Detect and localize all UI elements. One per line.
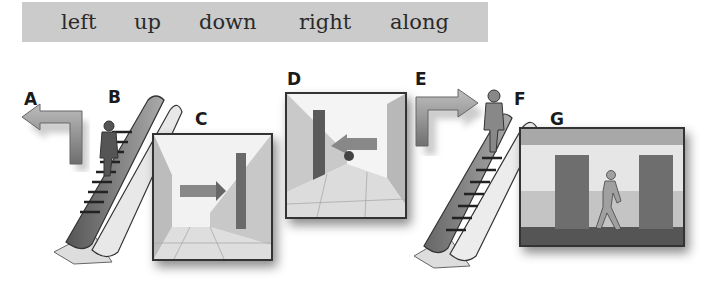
word-along: along — [390, 10, 449, 34]
corridor-frame-g — [519, 127, 685, 247]
label-d: D — [287, 70, 301, 88]
label-c: C — [195, 110, 207, 128]
corridor-frame-c — [152, 133, 273, 261]
word-up: up — [134, 10, 161, 34]
word-left: left — [61, 10, 96, 34]
word-right: right — [299, 10, 351, 34]
word-down: down — [199, 10, 257, 34]
corridor-frame-d — [285, 92, 407, 219]
label-g: G — [550, 110, 564, 128]
word-bank: left up down right along — [22, 2, 488, 42]
